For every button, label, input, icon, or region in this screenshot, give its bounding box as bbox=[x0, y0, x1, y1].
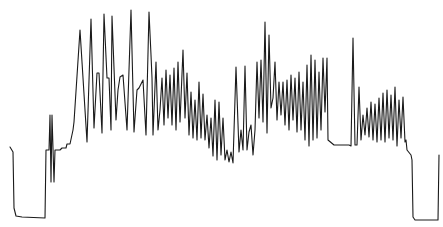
chart-canvas bbox=[0, 0, 443, 227]
waveform-trace-plot bbox=[0, 0, 443, 227]
waveform-trace-line bbox=[10, 10, 439, 220]
